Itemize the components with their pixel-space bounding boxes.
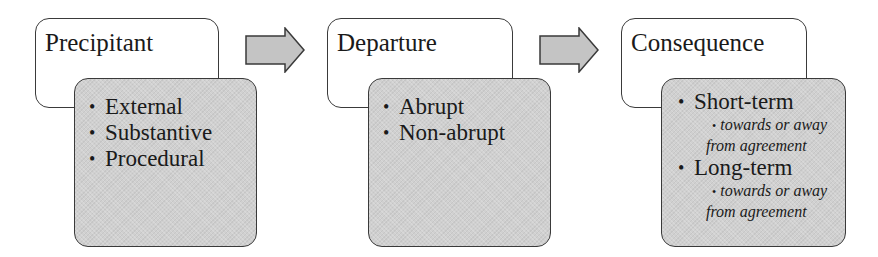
process-diagram: Precipitant External Substantive Procedu… [0,0,878,257]
item-list: External Substantive Procedural [89,94,212,172]
list-item: Abrupt [383,94,505,120]
stage-consequence-detail-box: Short-term •towards or away from agreeme… [661,78,846,247]
list-item: Long-term •towards or away from agreemen… [678,155,827,221]
list-item: Substantive [89,120,212,146]
item-list: Abrupt Non-abrupt [383,94,505,146]
right-arrow-icon [539,27,599,73]
item-label: Long-term [678,155,827,181]
list-item: Short-term •towards or away from agreeme… [678,89,827,155]
stage-title: Precipitant [45,28,153,58]
list-item: Non-abrupt [383,120,505,146]
bullet-icon: • [712,185,716,199]
item-list: Short-term •towards or away from agreeme… [678,89,827,221]
sub-item-line-2: from agreement [678,136,827,155]
stage-title: Consequence [631,28,764,58]
stage-precipitant-detail-box: External Substantive Procedural [74,78,257,247]
stage-title: Departure [337,28,437,58]
right-arrow-icon [245,27,305,73]
sub-item: •towards or away [678,115,827,136]
item-label: Short-term [678,89,827,115]
sub-item-line-1: towards or away [720,182,827,199]
stage-departure-detail-box: Abrupt Non-abrupt [368,78,551,247]
list-item: External [89,94,212,120]
bullet-icon: • [712,119,716,133]
sub-item-line-1: towards or away [720,116,827,133]
list-item: Procedural [89,146,212,172]
sub-item: •towards or away [678,181,827,202]
sub-item-line-2: from agreement [678,202,827,221]
